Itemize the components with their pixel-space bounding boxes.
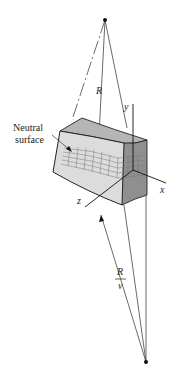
radius-lines-top <box>72 20 127 135</box>
radius-lines-bottom <box>101 195 146 362</box>
arrow-icon <box>99 215 104 222</box>
block-front-face <box>53 131 124 205</box>
label-ratio-denominator: ν <box>118 280 123 291</box>
label-z: z <box>76 195 81 206</box>
center-bottom-point <box>144 360 148 364</box>
beam-curvature-diagram: R y x z Neutral surface R ν <box>0 0 179 383</box>
label-surface: surface <box>15 134 44 145</box>
label-ratio-numerator: R <box>116 266 123 277</box>
label-neutral: Neutral <box>13 122 43 133</box>
label-y: y <box>123 101 129 112</box>
label-R: R <box>95 85 102 96</box>
label-x: x <box>159 184 165 195</box>
center-top-point <box>103 18 107 22</box>
